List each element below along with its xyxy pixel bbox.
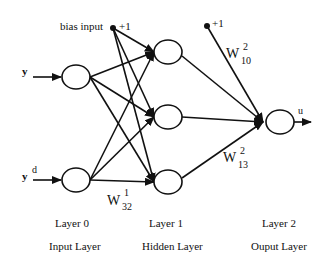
layer-1-desc: Hidden Layer <box>142 240 203 252</box>
bias-input-value: +1 <box>119 20 131 32</box>
layer-1-name: Layer 1 <box>149 217 183 229</box>
hidden-node-3 <box>154 170 182 194</box>
weight-w13-base: W <box>223 150 236 166</box>
input-yd-superscript: d <box>32 164 37 175</box>
hidden-node-1 <box>154 40 182 64</box>
bias-input-dot <box>110 25 116 31</box>
weight-w10-sub: 10 <box>241 55 251 66</box>
weight-w13-sup: 2 <box>240 145 245 156</box>
output-bias-value: +1 <box>212 17 224 29</box>
weight-w13-sub: 13 <box>238 159 248 170</box>
input-y-label: y <box>22 65 28 77</box>
input-yd-label: y <box>22 170 28 182</box>
output-node <box>266 110 294 134</box>
weight-w32-base: W <box>107 193 120 209</box>
weight-w32-sub: 32 <box>122 201 132 212</box>
layer-2-name: Layer 2 <box>262 217 296 229</box>
hidden-node-2 <box>154 105 182 129</box>
weight-w32-sup: 1 <box>124 187 129 198</box>
weight-w10-base: W <box>226 46 239 62</box>
layer-2-desc: Ouput Layer <box>251 240 307 252</box>
output-u-label: u <box>298 105 303 116</box>
layer-0-desc: Input Layer <box>49 240 101 252</box>
layer-0-name: Layer 0 <box>55 217 89 229</box>
input-node-yd <box>62 168 90 192</box>
input-node-y <box>62 65 90 89</box>
bias-input-label: bias input <box>60 20 103 32</box>
weight-w10-sup: 2 <box>243 41 248 52</box>
output-bias-dot <box>204 23 210 29</box>
